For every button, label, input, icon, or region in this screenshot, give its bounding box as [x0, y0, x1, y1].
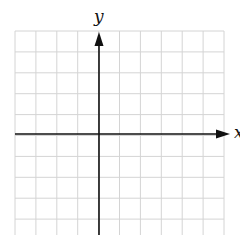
grid-lines — [15, 31, 224, 235]
coordinate-plane — [0, 0, 240, 235]
x-axis-label: x — [234, 124, 240, 141]
y-axis-label: y — [94, 8, 104, 25]
x-axis — [15, 130, 230, 139]
y-axis-arrowhead-icon — [95, 32, 104, 46]
x-axis-arrowhead-icon — [216, 130, 230, 139]
